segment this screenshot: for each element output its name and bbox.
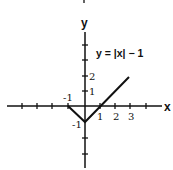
y-tick-label-2: 2 <box>89 71 95 82</box>
x-tick-label-1: 1 <box>97 111 103 122</box>
x-tick-label-2: 2 <box>113 111 119 122</box>
x-tick-label-neg1: -1 <box>63 92 73 103</box>
y-tick-label-1: 1 <box>89 86 95 97</box>
y-axis-label: y <box>81 16 88 30</box>
graph: y x y = |x| − 1 -1 1 2 3 -1 1 2 <box>0 0 173 170</box>
y-tick-label-neg1: -1 <box>72 119 82 130</box>
x-axis-label: x <box>164 100 171 114</box>
x-tick-label-3: 3 <box>128 111 134 122</box>
equation-label: y = |x| − 1 <box>96 47 143 59</box>
